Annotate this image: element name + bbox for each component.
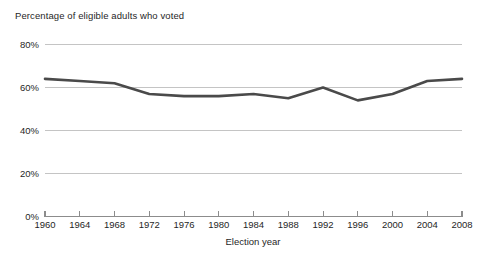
x-axis-tick-labels: 1960 1964 1968 1972 1976 1980 1984 1988 … [34,219,472,230]
x-tick-label-1968: 1968 [104,219,125,230]
x-tick-label-1980: 1980 [208,219,229,230]
y-tick-label-40: 40% [20,125,40,136]
y-tick-label-80: 80% [20,39,40,50]
x-tick-label-1964: 1964 [69,219,90,230]
x-tick-label-2004: 2004 [417,219,438,230]
y-tick-label-60: 60% [20,82,40,93]
data-series-line [45,79,462,101]
x-tick-label-1976: 1976 [173,219,194,230]
x-tick-label-2000: 2000 [382,219,403,230]
line-chart: Percentage of eligible adults who voted … [0,0,486,258]
x-tick-label-1960: 1960 [34,219,55,230]
x-tick-label-1992: 1992 [312,219,333,230]
y-gridlines [45,45,462,174]
x-axis-tick-marks [80,211,428,217]
x-tick-label-1984: 1984 [243,219,264,230]
x-tick-label-1972: 1972 [139,219,160,230]
x-tick-label-1996: 1996 [347,219,368,230]
x-tick-label-2008: 2008 [451,219,472,230]
y-axis-tick-labels: 80% 60% 40% 20% 0% [20,39,40,222]
chart-plot-area: 80% 60% 40% 20% 0% 1960 1964 1968 1972 1… [0,0,486,258]
x-axis-title: Election year [226,236,281,247]
x-tick-label-1988: 1988 [278,219,299,230]
y-tick-label-20: 20% [20,168,40,179]
